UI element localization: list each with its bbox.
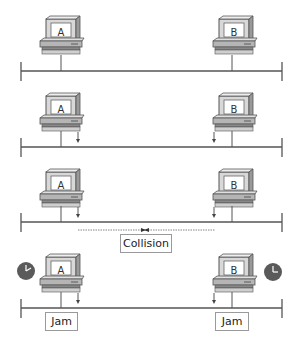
panel-2-transmit	[21, 93, 282, 157]
clock-icon	[264, 263, 282, 281]
jam-label-b: Jam	[215, 312, 249, 331]
panel-4-jam	[17, 254, 282, 318]
station-b-label: B	[224, 104, 244, 116]
panel-1-idle	[21, 16, 282, 81]
station-b-label: B	[224, 180, 244, 192]
station-a-label: A	[51, 104, 71, 116]
panel-3-collision	[21, 169, 282, 232]
station-a-label: A	[51, 265, 71, 277]
station-b-label: B	[224, 27, 244, 39]
collision-label: Collision	[120, 234, 172, 253]
clock-icon	[17, 262, 35, 280]
station-a-label: A	[51, 180, 71, 192]
station-b-label: B	[224, 265, 244, 277]
csma-cd-diagram: A B A B A B A B Collision Jam Jam	[0, 0, 299, 343]
jam-label-a: Jam	[45, 312, 78, 331]
diagram-canvas	[0, 0, 299, 343]
station-a-label: A	[51, 27, 71, 39]
